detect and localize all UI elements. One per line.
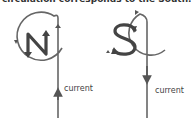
solenoid-diagrams [0, 0, 191, 121]
north-pole-diagram [14, 12, 62, 118]
current-label-left: current [64, 84, 93, 93]
current-label-right: current [155, 86, 184, 95]
south-pole-diagram [106, 10, 165, 118]
